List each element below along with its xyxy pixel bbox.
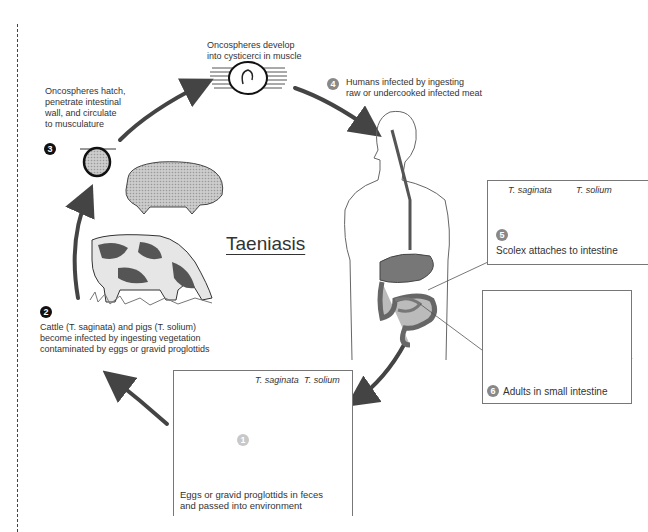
- stage-5-label: Scolex attaches to intestine: [496, 245, 618, 256]
- stage-3-label: Oncospheres hatch, penetrate intestinal …: [45, 86, 126, 130]
- human-digestive-illustration: [345, 111, 450, 360]
- label-cysticerci: Oncospheres develop into cysticerci in m…: [207, 40, 302, 62]
- stage-1-box: T. saginata T. solium 1 Eggs or gravid p…: [173, 370, 353, 516]
- diagram-title: Taeniasis: [226, 233, 305, 255]
- stage-6-box: 6 Adults in small intestine: [482, 290, 632, 404]
- stage-1-label: Eggs or gravid proglottids in feces and …: [180, 489, 323, 511]
- stage-1-badge: 1: [237, 434, 249, 446]
- stage-5-box: T. saginata T. solium 5 Scolex attaches …: [487, 180, 648, 265]
- stage-4-badge: 4: [327, 78, 339, 90]
- stage-3-badge: 3: [44, 143, 56, 155]
- stage-2-label: Cattle (T. saginata) and pigs (T. solium…: [40, 322, 210, 355]
- pig-illustration: [126, 162, 223, 214]
- stage-2-badge: 2: [40, 306, 52, 318]
- cow-illustration: [90, 235, 212, 305]
- stage-4-label: Humans infected by ingesting raw or unde…: [346, 77, 482, 99]
- stage-5-badge: 5: [496, 229, 508, 241]
- cysticercus-icon: [210, 62, 287, 94]
- stage-6-label: Adults in small intestine: [503, 386, 608, 397]
- oncosphere-icon: [80, 148, 116, 176]
- stage-6-badge: 6: [487, 385, 499, 397]
